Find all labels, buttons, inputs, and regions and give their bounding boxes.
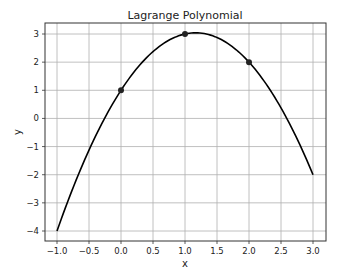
y-tick-label: 3 [34,29,39,39]
data-point [118,87,124,93]
grid-lines [45,23,326,241]
y-axis-ticks: −4−3−2−10123 [26,29,45,236]
x-tick-label: 0.5 [146,246,160,256]
y-tick-label: −4 [26,226,39,236]
x-tick-label: 1.0 [178,246,192,256]
y-tick-label: 2 [34,57,39,67]
chart-title: Lagrange Polynomial [127,9,242,22]
x-tick-label: −1.0 [47,246,68,256]
y-tick-label: 1 [34,85,39,95]
x-tick-label: −0.5 [79,246,100,256]
y-tick-label: −1 [26,142,39,152]
y-tick-label: −2 [26,170,39,180]
axes-frame [45,23,326,241]
data-point [182,31,188,37]
x-tick-label: 2.5 [274,246,288,256]
x-tick-label: 0.0 [114,246,128,256]
x-axis-ticks: −1.0−0.50.00.51.01.52.02.53.0 [47,241,320,256]
y-tick-label: −3 [26,198,39,208]
data-point [246,59,252,65]
x-axis-label: x [182,258,188,269]
chart: −1.0−0.50.00.51.01.52.02.53.0 −4−3−2−101… [0,0,339,280]
x-tick-label: 1.5 [210,246,224,256]
x-tick-label: 2.0 [242,246,256,256]
y-tick-label: 0 [34,113,39,123]
y-axis-label: y [12,129,23,135]
x-tick-label: 3.0 [306,246,320,256]
